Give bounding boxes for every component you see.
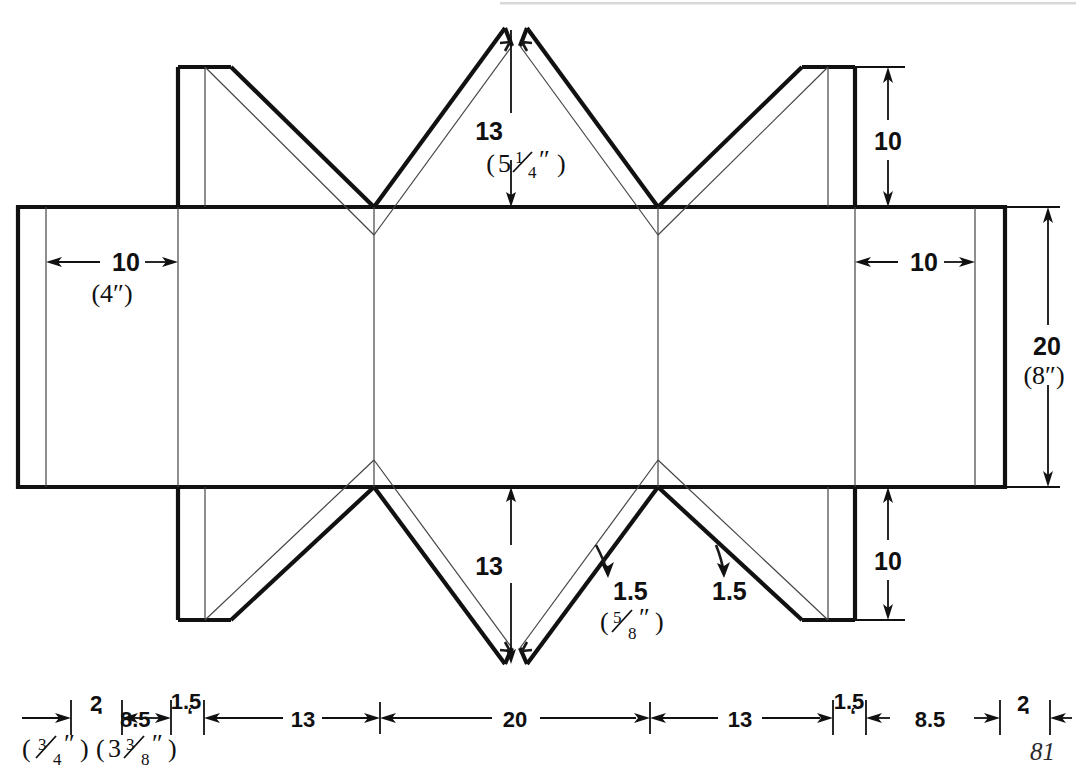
tl-flap-diagonal-outer [231, 67, 374, 207]
ruler-imperial-0: ( 3 4 ″ ) [22, 729, 89, 769]
top-center-right-peak [520, 28, 658, 235]
dimension-right-panel: 10 [855, 248, 975, 276]
tcl-apex-notch [500, 42, 510, 51]
paren-close: ) [655, 607, 664, 636]
paren-close: ) [557, 149, 566, 178]
tr-flap-diagonal-outer [658, 67, 802, 207]
imperial-denominator: 4 [528, 163, 537, 182]
dim-overall-height-value: 20 [1033, 332, 1061, 360]
ruler-item-5: 13 [662, 707, 833, 732]
ruler-item-6: 1.5 ‘ [833, 689, 890, 735]
inch-mark: ″ [639, 603, 650, 632]
page-number: 81 [1030, 738, 1055, 765]
callout-left-imperial: ( 5 8 ″ ) [600, 603, 664, 643]
ruler-arrow-4b [634, 713, 650, 723]
tcr-apex-notch [522, 42, 532, 51]
dim-right-bottom-flap-value: 10 [874, 547, 902, 575]
tcr-diagonal-outer [527, 28, 658, 207]
bcr-diagonal-outer [527, 487, 658, 664]
internal-fold-lines [178, 207, 855, 487]
ruler-value-3: 13 [291, 707, 315, 732]
ruler-gap-mark-8: ‘ [1024, 703, 1030, 728]
top-right-flap [658, 67, 855, 235]
dim-left-panel-imperial: (4″) [91, 279, 132, 308]
imperial-denominator: 8 [141, 750, 150, 769]
paren-open: ( [96, 734, 105, 763]
dimension-top-center: 13 ( 5 1 4 ″ ) [475, 30, 565, 207]
top-left-flap [178, 67, 374, 235]
bottom-center-right-peak [520, 460, 658, 664]
main-body-outline [18, 207, 1005, 487]
dimension-overall-height: 20 (8″) [1005, 207, 1065, 487]
dimension-left-panel: 10 (4″) [46, 248, 178, 308]
inch-mark: ″ [152, 729, 163, 758]
ruler-value-1: 8.5 [120, 707, 151, 732]
ruler-gap-mark-0: ‘ [97, 703, 103, 728]
scan-artifact-line [500, 2, 1076, 5]
ruler-item-3: 13 [216, 702, 396, 734]
inch-mark: ″ [64, 729, 75, 758]
inch-mark: ″ [539, 145, 550, 174]
imperial-whole: 5 [498, 149, 511, 178]
bottom-left-flap [178, 460, 374, 620]
callout-right-value: 1.5 [712, 577, 747, 605]
dimension-bottom-center: 13 [475, 487, 516, 664]
paren-close: ) [80, 734, 89, 763]
dim-overall-height-imperial: (8″) [1023, 361, 1064, 390]
ruler-imperial-1: ( 3 3 8 ″ ) [96, 729, 177, 769]
outer-body-rect [18, 207, 1005, 487]
dim-right-top-flap-value: 10 [874, 127, 902, 155]
dimension-right-top-flap: 10 [855, 67, 1005, 207]
dimension-right-bottom-flap: 10 [855, 487, 1005, 620]
tl-flap-diagonal-inner [205, 67, 374, 235]
callout-left-value: 1.5 [613, 577, 648, 605]
paren-open: ( [600, 607, 609, 636]
dim-top-center-imperial: ( 5 1 4 ″ ) [486, 145, 565, 182]
paren-open: ( [22, 734, 31, 763]
ruler-gap-mark-6: ‘ [850, 703, 856, 728]
ruler-value-7: 8.5 [915, 707, 946, 732]
dim-right-panel-value: 10 [910, 248, 938, 276]
callout-left-arrowhead [601, 562, 614, 578]
bottom-ruler: 2 ‘ ( 3 4 ″ ) 8.5 ( 3 [22, 689, 1072, 769]
tr-flap-diagonal-inner [658, 67, 828, 235]
bl-flap-diagonal-inner [205, 460, 374, 620]
imperial-denominator: 4 [53, 750, 62, 769]
ruler-item-7: 8.5 [915, 707, 946, 732]
ruler-gap-mark-2: ‘ [187, 703, 193, 728]
ruler-value-4: 20 [503, 707, 527, 732]
paren-close: ) [168, 734, 177, 763]
technical-drawing: 13 ( 5 1 4 ″ ) 13 10 (4 [0, 0, 1076, 772]
figure-page: 13 ( 5 1 4 ″ ) 13 10 (4 [0, 0, 1076, 772]
dim-bottom-center-value: 13 [475, 552, 503, 580]
dim-top-center-value: 13 [475, 117, 503, 145]
ruler-value-5: 13 [728, 707, 752, 732]
bl-flap-diagonal-outer [231, 487, 374, 620]
dim-left-panel-value: 10 [112, 248, 140, 276]
ruler-item-8: 2 ‘ [974, 691, 1072, 735]
ruler-item-4: 20 [392, 702, 666, 734]
bottom-right-flap [658, 460, 855, 620]
imperial-denominator: 8 [628, 624, 637, 643]
imperial-whole: 3 [108, 734, 121, 763]
paren-open: ( [486, 149, 495, 178]
